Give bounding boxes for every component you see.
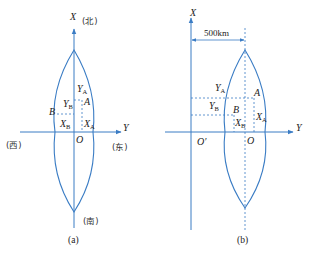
caption-b: (b) [237,235,248,246]
figure-a: X (北) Y (西) (东) (南) (a) O A B YA YB XB X… [6,11,130,246]
yb-label-b: YB [209,100,220,112]
x-axis-label-b: X [189,7,197,18]
origin-label-b: O [247,135,254,146]
point-a-label-b: A [253,87,261,98]
north-label: (北) [82,16,98,26]
caption-a: (a) [68,235,79,246]
figure-b: 500km X Y O O′ A B YA YB XB XA (b) [165,7,303,246]
point-a-label-a: A [83,96,91,107]
east-label: (东) [112,142,128,152]
xb-label-a: XB [59,118,71,130]
false-origin-label-b: O′ [197,136,207,147]
point-b-label-b: B [233,104,239,115]
y-axis-label-a: Y [123,122,130,133]
south-label: (南) [83,216,99,226]
origin-label-a: O [76,134,83,145]
xb-label-b: XB [234,117,246,129]
ya-label-a: YA [77,83,88,95]
west-label: (西) [6,140,22,150]
offset-label-b: 500km [204,28,229,38]
ya-label-b: YA [215,82,226,94]
yb-label-a: YB [63,98,74,110]
gauss-kruger-projection-diagram: X (北) Y (西) (东) (南) (a) O A B YA YB XB X… [0,0,309,255]
point-b-label-a: B [49,106,55,117]
x-axis-label-a: X [69,11,77,22]
y-axis-label-b: Y [296,122,303,133]
